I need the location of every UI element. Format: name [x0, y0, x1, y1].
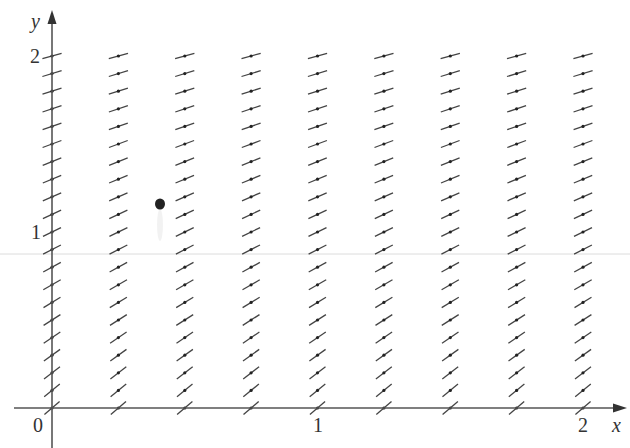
grid-point — [581, 195, 584, 198]
grid-point — [449, 283, 452, 286]
grid-point — [250, 195, 253, 198]
grid-point — [581, 213, 584, 216]
grid-point — [117, 54, 120, 57]
origin-label: 0 — [33, 414, 43, 436]
grid-point — [581, 248, 584, 251]
grid-point — [117, 195, 120, 198]
grid-point — [250, 230, 253, 233]
grid-point — [316, 72, 319, 75]
grid-point — [581, 318, 584, 321]
grid-point — [117, 336, 120, 339]
grid-point — [183, 160, 186, 163]
grid-point — [117, 266, 120, 269]
grid-point — [382, 107, 385, 110]
grid-point — [183, 178, 186, 181]
grid-point — [449, 160, 452, 163]
grid-point — [316, 318, 319, 321]
grid-point — [250, 354, 253, 357]
grid-point — [316, 336, 319, 339]
grid-point — [581, 283, 584, 286]
grid-point — [117, 248, 120, 251]
grid-point — [515, 142, 518, 145]
y-tick-label-1: 1 — [31, 221, 41, 243]
grid-point — [382, 90, 385, 93]
grid-point — [316, 354, 319, 357]
grid-point — [316, 107, 319, 110]
grid-point — [515, 160, 518, 163]
grid-point — [581, 371, 584, 374]
grid-point — [382, 389, 385, 392]
grid-point — [515, 90, 518, 93]
grid-point — [515, 301, 518, 304]
grid-point — [183, 230, 186, 233]
grid-point — [250, 266, 253, 269]
grid-point — [515, 107, 518, 110]
grid-point — [316, 195, 319, 198]
grid-point — [117, 90, 120, 93]
ink-smudge — [155, 199, 165, 210]
grid-point — [449, 266, 452, 269]
grid-point — [250, 54, 253, 57]
grid-point — [515, 195, 518, 198]
x-axis-arrow-icon — [613, 404, 627, 413]
grid-point — [316, 54, 319, 57]
grid-point — [250, 336, 253, 339]
grid-point — [449, 178, 452, 181]
grid-point — [449, 354, 452, 357]
grid-point — [250, 178, 253, 181]
grid-point — [117, 318, 120, 321]
slope-field-plot: y 2 1 0 1 2 x — [0, 0, 630, 448]
grid-point — [316, 230, 319, 233]
grid-point — [515, 371, 518, 374]
grid-point — [183, 107, 186, 110]
x-tick-label-2: 2 — [578, 414, 588, 436]
ink-smudge-trail — [157, 209, 163, 241]
grid-point — [382, 142, 385, 145]
grid-point — [515, 125, 518, 128]
grid-point — [183, 54, 186, 57]
grid-point — [515, 318, 518, 321]
grid-point — [250, 371, 253, 374]
grid-point — [382, 178, 385, 181]
grid-point — [581, 336, 584, 339]
grid-point — [183, 195, 186, 198]
grid-point — [449, 125, 452, 128]
grid-point — [515, 178, 518, 181]
grid-point — [382, 72, 385, 75]
grid-point — [250, 90, 253, 93]
grid-point — [581, 142, 584, 145]
grid-point — [316, 283, 319, 286]
grid-point — [581, 354, 584, 357]
grid-point — [581, 54, 584, 57]
grid-point — [449, 389, 452, 392]
grid-point — [449, 72, 452, 75]
grid-point — [183, 389, 186, 392]
grid-point — [183, 90, 186, 93]
grid-point — [449, 195, 452, 198]
grid-point — [183, 283, 186, 286]
grid-point — [581, 389, 584, 392]
grid-point — [581, 230, 584, 233]
grid-point — [382, 371, 385, 374]
grid-point — [449, 107, 452, 110]
grid-point — [250, 389, 253, 392]
grid-point — [316, 213, 319, 216]
grid-point — [117, 230, 120, 233]
grid-point — [250, 125, 253, 128]
grid-point — [449, 54, 452, 57]
grid-point — [183, 213, 186, 216]
grid-point — [515, 213, 518, 216]
grid-point — [117, 389, 120, 392]
grid-point — [449, 142, 452, 145]
grid-point — [316, 371, 319, 374]
grid-point — [382, 54, 385, 57]
grid-point — [581, 301, 584, 304]
grid-point — [183, 301, 186, 304]
grid-point — [581, 90, 584, 93]
y-axis-arrow-icon — [48, 10, 57, 24]
slope-segments — [42, 53, 592, 414]
grid-point — [382, 230, 385, 233]
grid-point — [449, 230, 452, 233]
grid-point — [117, 160, 120, 163]
grid-point — [250, 107, 253, 110]
